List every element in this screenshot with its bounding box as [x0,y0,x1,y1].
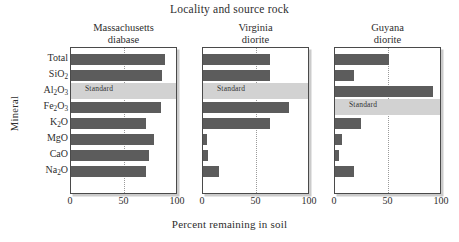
bar-na2o [203,166,219,177]
bar-total [71,54,165,65]
bar-sio2 [203,70,270,81]
bar-al2o3 [335,86,433,97]
panel-title-line2: diabase [70,34,177,46]
bar-rows: Standard [335,48,440,193]
bar-row-cao [335,147,440,163]
bar-rows: Standard [71,48,176,193]
x-tick-label-50: 50 [383,195,393,206]
bar-row-cao [203,147,308,163]
plot-area-guyana-diorite: Standard [334,47,441,194]
x-tick-label-50: 50 [251,195,261,206]
panel-title-virginia-diorite: Virginiadiorite [202,22,309,47]
bar-cao [335,150,339,161]
bar-na2o [335,166,354,177]
bar-row-total [71,51,176,67]
x-axis-virginia-diorite: 050100 [202,194,309,210]
chart-super-title: Locality and source rock [0,3,459,15]
bar-row-na2o [203,163,308,179]
bar-cao [203,150,208,161]
x-tick-label-0: 0 [68,195,73,206]
standard-band-fe2o3: Standard [335,99,440,115]
bar-row-al2o3 [335,83,440,99]
x-tick-label-100: 100 [302,195,317,206]
standard-label: Standard [349,100,377,109]
bar-row-sio2 [71,67,176,83]
panel-title-guyana-diorite: Guyanadiorite [334,22,441,47]
bar-mgo [71,134,154,145]
panel-title-line1: Guyana [371,22,404,33]
panel-title-line2: diorite [334,34,441,46]
y-axis-title: Mineral [9,84,20,144]
bar-total [335,54,389,65]
bar-row-k2o [71,115,176,131]
bar-k2o [71,118,146,129]
bar-mgo [335,134,342,145]
bar-row-fe2o3 [203,99,308,115]
standard-label: Standard [217,84,245,93]
bar-row-k2o [335,115,440,131]
standard-band-al2o3: Standard [71,83,176,99]
bar-fe2o3 [203,102,289,113]
bar-row-na2o [335,163,440,179]
y-axis-label-sio2: SiO2 [49,69,68,80]
y-axis-label-cao: CaO [50,149,68,159]
bar-row-mgo [203,131,308,147]
bar-total [203,54,270,65]
y-axis-label-al2o3: Al2O3 [44,85,68,96]
bar-row-k2o [203,115,308,131]
y-axis-label-na2o: Na2O [46,165,69,176]
bar-na2o [71,166,146,177]
x-axis-title: Percent remaining in soil [0,218,459,230]
panel-title-line2: diorite [202,34,309,46]
panel-virginia-diorite: VirginiadioriteStandard050100 [202,22,309,210]
panel-guyana-diorite: GuyanadioriteStandard050100 [334,22,441,210]
x-tick-label-100: 100 [170,195,185,206]
standard-label: Standard [85,84,113,93]
bar-sio2 [71,70,162,81]
standard-band-al2o3: Standard [203,83,308,99]
panel-title-massachusetts-diabase: Massachusettsdiabase [70,22,177,47]
plot-area-massachusetts-diabase: Standard [70,47,177,194]
bar-row-na2o [71,163,176,179]
bar-rows: Standard [203,48,308,193]
x-tick-label-100: 100 [434,195,449,206]
x-tick-label-50: 50 [119,195,129,206]
x-axis-guyana-diorite: 050100 [334,194,441,210]
bar-row-fe2o3 [71,99,176,115]
bar-row-total [203,51,308,67]
panel-massachusetts-diabase: MassachusettsdiabaseStandard050100 [70,22,177,210]
bar-k2o [335,118,361,129]
bar-row-total [335,51,440,67]
plot-area-virginia-diorite: Standard [202,47,309,194]
bar-row-sio2 [335,67,440,83]
bar-row-mgo [335,131,440,147]
y-axis-label-mgo: MgO [47,133,68,143]
chart-figure: Locality and source rock TotalSiO2Al2O3F… [0,0,459,242]
bar-row-cao [71,147,176,163]
bar-sio2 [335,70,354,81]
bar-k2o [203,118,270,129]
bar-row-mgo [71,131,176,147]
y-axis-label-total: Total [48,53,68,63]
panel-title-line1: Virginia [238,22,272,33]
bar-cao [71,150,149,161]
panel-title-line1: Massachusetts [93,22,154,33]
bar-fe2o3 [71,102,161,113]
x-axis-massachusetts-diabase: 050100 [70,194,177,210]
bar-row-sio2 [203,67,308,83]
bar-mgo [203,134,207,145]
x-tick-label-0: 0 [200,195,205,206]
y-axis-label-k2o: K2O [50,117,68,128]
y-axis-label-fe2o3: Fe2O3 [44,101,68,112]
x-tick-label-0: 0 [332,195,337,206]
